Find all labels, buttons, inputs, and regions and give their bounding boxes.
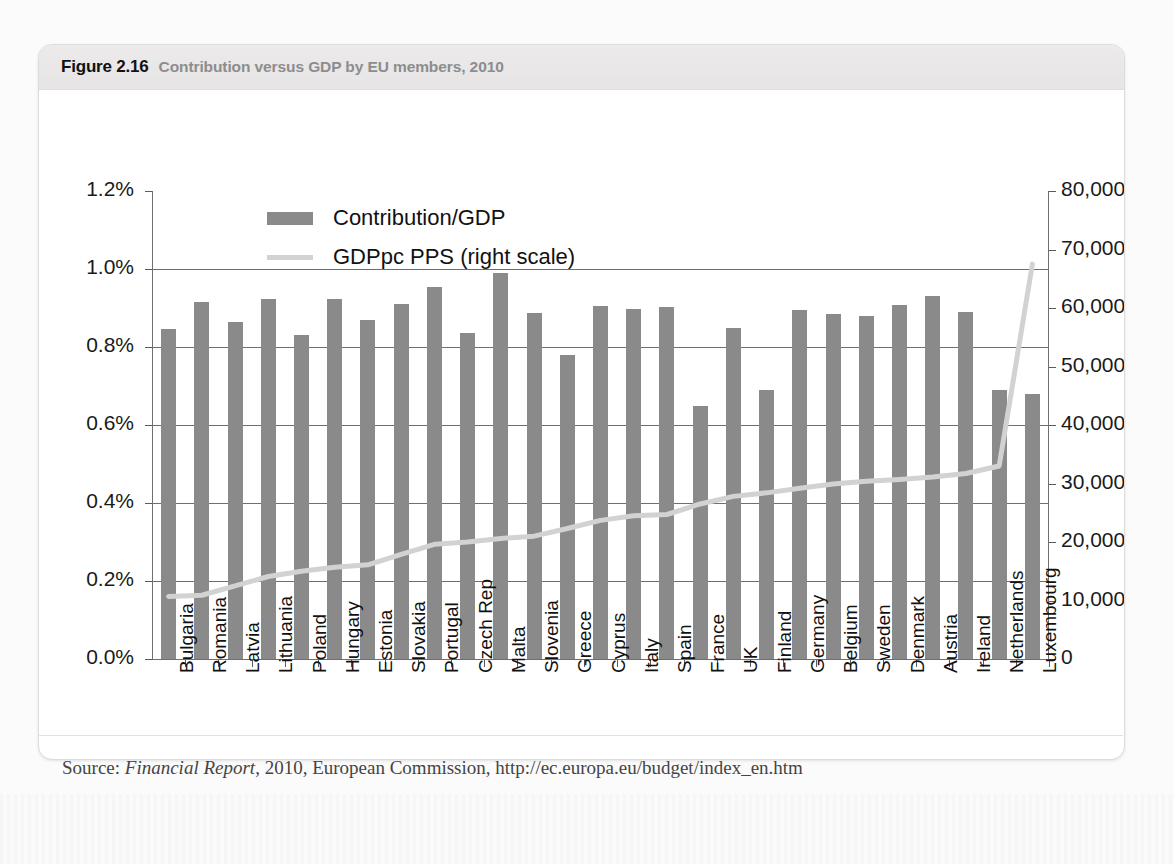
legend-item-gdppc: GDPpc PPS (right scale): [267, 242, 575, 272]
x-axis-label-luxembourg: Luxembourg: [1039, 567, 1061, 673]
x-axis-label-poland: Poland: [309, 614, 331, 673]
source-rest: , 2010, European Commission, http://ec.e…: [255, 757, 803, 778]
bar-slovakia: [394, 304, 409, 659]
bar-uk: [726, 328, 741, 660]
y-tick-right: [1049, 367, 1056, 368]
y-tick-label-right: 60,000: [1061, 294, 1125, 318]
bar-hungary: [327, 299, 342, 659]
page-bottom-texture: [0, 794, 1174, 864]
legend-swatch-line-icon: [267, 255, 313, 260]
y-tick-left: [145, 347, 152, 348]
x-axis-label-uk: UK: [740, 647, 762, 673]
y-tick-left: [145, 425, 152, 426]
x-axis-label-belgium: Belgium: [840, 604, 862, 673]
y-tick-right: [1049, 542, 1056, 543]
bar-italy: [626, 309, 641, 659]
bar-finland: [759, 390, 774, 659]
y-tick-right: [1049, 308, 1056, 309]
y-tick-label-right: 70,000: [1061, 236, 1125, 260]
chart-legend: Contribution/GDP GDPpc PPS (right scale): [267, 203, 575, 281]
figure-number: Figure 2.16: [61, 57, 149, 77]
source-publication: Financial Report: [125, 757, 255, 778]
y-tick-label-left: 0.8%: [74, 333, 134, 357]
source-divider: [38, 735, 1123, 736]
x-axis-label-denmark: Denmark: [907, 596, 929, 673]
x-axis-label-bulgaria: Bulgaria: [176, 603, 198, 673]
x-axis-label-estonia: Estonia: [375, 610, 397, 673]
y-tick-left: [145, 269, 152, 270]
y-tick-label-left: 0.6%: [74, 411, 134, 435]
x-axis-label-germany: Germany: [807, 595, 829, 673]
x-axis-label-slovenia: Slovenia: [541, 600, 563, 673]
x-axis-label-portugal: Portugal: [441, 602, 463, 673]
x-axis-label-austria: Austria: [940, 614, 962, 673]
x-axis-label-slovakia: Slovakia: [408, 601, 430, 673]
y-tick-label-right: 30,000: [1061, 470, 1125, 494]
x-axis-label-spain: Spain: [674, 624, 696, 673]
bar-lithuania: [261, 299, 276, 659]
y-tick-left: [145, 581, 152, 582]
x-axis-label-italy: Italy: [641, 638, 663, 673]
y-tick-left: [145, 503, 152, 504]
bar-bulgaria: [161, 329, 176, 659]
x-axis-label-sweden: Sweden: [873, 604, 895, 673]
figure-header: Figure 2.16 Contribution versus GDP by E…: [39, 45, 1124, 90]
y-tick-left: [145, 659, 152, 660]
x-axis-label-greece: Greece: [574, 611, 596, 673]
y-tick-label-right: 20,000: [1061, 528, 1125, 552]
y-tick-right: [1049, 484, 1056, 485]
x-axis-label-netherlands: Netherlands: [1006, 571, 1028, 673]
legend-label-contribution: Contribution/GDP: [333, 205, 505, 231]
x-axis-label-france: France: [707, 614, 729, 673]
y-tick-right: [1049, 425, 1056, 426]
y-tick-label-left: 1.2%: [74, 177, 134, 201]
bar-germany: [792, 310, 807, 659]
y-tick-label-right: 80,000: [1061, 177, 1125, 201]
legend-item-contribution: Contribution/GDP: [267, 203, 575, 233]
x-axis-label-finland: Finland: [774, 611, 796, 673]
y-tick-label-left: 0.4%: [74, 489, 134, 513]
x-axis-label-latvia: Latvia: [242, 622, 264, 673]
figure-title: Contribution versus GDP by EU members, 2…: [159, 58, 504, 76]
y-tick-label-right: 40,000: [1061, 411, 1125, 435]
y-tick-right: [1049, 191, 1056, 192]
source-note: Source: Financial Report, 2010, European…: [62, 757, 803, 779]
bar-ireland: [958, 312, 973, 659]
x-axis-label-hungary: Hungary: [342, 601, 364, 673]
bar-slovenia: [527, 313, 542, 659]
x-axis-label-lithuania: Lithuania: [275, 596, 297, 673]
y-tick-label-left: 0.2%: [74, 567, 134, 591]
x-axis-label-romania: Romania: [209, 597, 231, 673]
y-tick-label-right: 10,000: [1061, 587, 1125, 611]
y-tick-label-left: 0.0%: [74, 645, 134, 669]
x-axis-label-czech-rep: Czech Rep: [475, 579, 497, 673]
y-tick-label-right: 0: [1061, 645, 1073, 669]
x-axis-label-malta: Malta: [508, 627, 530, 673]
x-axis-label-cyprus: Cyprus: [608, 613, 630, 673]
bar-france: [693, 406, 708, 659]
y-tick-right: [1049, 250, 1056, 251]
chart-area: 0.0%0.2%0.4%0.6%0.8%1.0%1.2% 010,00020,0…: [39, 90, 1124, 758]
y-tick-label-left: 1.0%: [74, 255, 134, 279]
source-prefix: Source:: [62, 757, 120, 778]
x-axis-label-ireland: Ireland: [973, 615, 995, 673]
page-root: Figure 2.16 Contribution versus GDP by E…: [0, 0, 1174, 864]
bar-spain: [659, 307, 674, 659]
legend-label-gdppc: GDPpc PPS (right scale): [333, 244, 575, 270]
y-tick-left: [145, 191, 152, 192]
legend-swatch-bar-icon: [267, 212, 313, 225]
bar-cyprus: [593, 306, 608, 659]
figure-card: Figure 2.16 Contribution versus GDP by E…: [38, 44, 1125, 760]
y-tick-label-right: 50,000: [1061, 353, 1125, 377]
